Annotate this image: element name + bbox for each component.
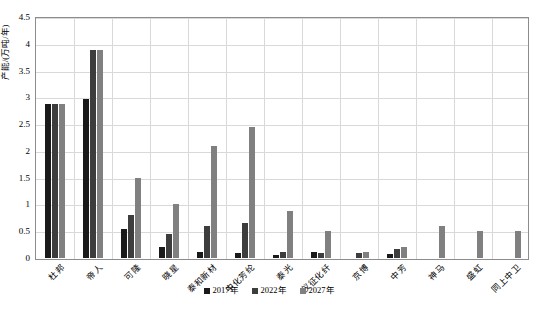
bar [311, 252, 317, 258]
bar [280, 252, 286, 258]
bar [477, 231, 483, 258]
bar [59, 104, 65, 258]
bar [45, 104, 51, 258]
y-tick-label: 4.5 [2, 13, 30, 22]
bar [204, 226, 210, 258]
bar [211, 146, 217, 258]
legend-label: 2017年 [213, 286, 239, 295]
y-tick-label: 1 [2, 200, 30, 209]
y-tick-label: 0 [2, 254, 30, 263]
y-tick-label: 4 [2, 40, 30, 49]
bar [135, 178, 141, 258]
legend-label: 2027年 [309, 286, 335, 295]
bar [387, 254, 393, 258]
bar [273, 255, 279, 258]
bar [325, 231, 331, 258]
bar [515, 231, 521, 258]
bar [197, 252, 203, 258]
bar [128, 215, 134, 258]
bar [90, 50, 96, 258]
legend-swatch-icon [252, 288, 258, 294]
y-tick-label: 3 [2, 93, 30, 102]
bar [242, 223, 248, 258]
legend-item: 2022年 [252, 286, 287, 295]
bar [394, 249, 400, 258]
bar [249, 127, 255, 258]
y-tick-label: 0.5 [2, 227, 30, 236]
bar [356, 253, 362, 258]
legend-swatch-icon [300, 288, 306, 294]
bar [439, 226, 445, 258]
bar [83, 99, 89, 258]
legend-label: 2022年 [261, 286, 287, 295]
chart-legend: 2017年2022年2027年 [0, 286, 538, 295]
bar [318, 253, 324, 258]
bar [166, 234, 172, 258]
bar [235, 253, 241, 258]
legend-swatch-icon [204, 288, 210, 294]
bar [121, 229, 127, 258]
bars-layer [36, 18, 528, 259]
bar-chart: 产能/(万吨/年) 00.511.522.533.544.5 杜邦帝人可隆晓星泰… [0, 0, 538, 319]
y-tick-label: 2.5 [2, 120, 30, 129]
bar [173, 204, 179, 258]
legend-item: 2017年 [204, 286, 239, 295]
bar [287, 211, 293, 258]
legend-item: 2027年 [300, 286, 335, 295]
y-tick-label: 2 [2, 147, 30, 156]
bar [52, 104, 58, 258]
bar [401, 247, 407, 258]
bar [159, 247, 165, 258]
y-tick-label: 3.5 [2, 67, 30, 76]
bar [363, 252, 369, 258]
bar [97, 50, 103, 258]
y-tick-label: 1.5 [2, 174, 30, 183]
plot-area [35, 17, 529, 260]
